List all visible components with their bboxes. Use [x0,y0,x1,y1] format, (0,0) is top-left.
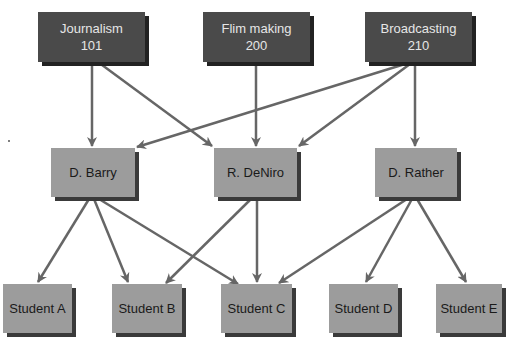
course-title: Journalism [60,20,123,37]
stray-mark [8,140,10,142]
instructor-node-barry: D. Barry [51,148,135,197]
student-node-d: Student D [329,284,398,333]
student-node-e: Student E [436,284,502,333]
arrow-rather-to-student-e [417,199,466,282]
instructor-name: D. Rather [388,164,444,181]
student-node-a: Student A [3,284,72,333]
arrow-broadcasting-to-deniro [299,64,410,146]
student-node-c: Student C [221,284,292,333]
instructor-node-rather: D. Rather [375,148,457,197]
course-title: Flim making [221,20,291,37]
arrow-deniro-to-student-b [166,199,251,283]
student-name: Student E [440,300,497,317]
arrow-journalism-to-deniro [98,62,212,146]
student-name: Student D [335,300,393,317]
arrow-barry-to-student-b [94,199,128,282]
instructor-name: R. DeNiro [227,164,284,181]
student-name: Student A [9,300,65,317]
course-number: 210 [408,37,430,54]
arrow-broadcasting-to-barry [137,64,405,147]
course-number: 101 [81,37,103,54]
course-node-broadcasting: Broadcasting 210 [365,12,472,62]
course-node-journalism: Journalism 101 [38,12,145,62]
course-node-filmmaking: Flim making 200 [203,12,310,62]
instructor-node-deniro: R. DeNiro [214,148,297,197]
arrow-barry-to-student-a [38,199,89,282]
instructor-name: D. Barry [69,164,117,181]
course-number: 200 [246,37,268,54]
arrow-barry-to-student-c [99,199,238,284]
student-name: Student B [118,300,175,317]
student-name: Student C [228,300,286,317]
course-title: Broadcasting [381,20,457,37]
student-node-b: Student B [112,284,182,333]
